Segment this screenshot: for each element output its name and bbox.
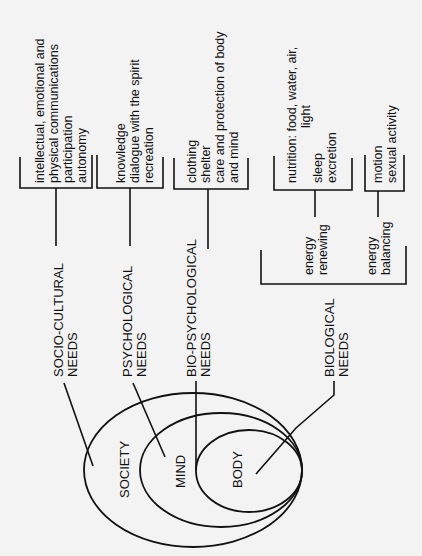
body-label: BODY: [230, 451, 245, 488]
psychological-needs-label: PSYCHOLOGICAL NEEDS: [120, 263, 149, 377]
body-pointer-line: [256, 381, 334, 474]
group-socio-cultural-items: intellectual, emotional and physical com…: [33, 35, 89, 183]
group-nutrition-items: nutrition: food, water, air, light: [285, 43, 313, 183]
socio-cultural-needs-label: SOCIO-CULTURAL NEEDS: [51, 260, 80, 377]
group-bio-psychological-items: clothing shelter care and protection of …: [185, 28, 241, 183]
society-label: SOCIETY: [117, 441, 132, 498]
mind-pointer-line: [133, 383, 165, 457]
bio-psychological-needs-label: BIO-PSYCHOLOGICAL NEEDS: [184, 236, 213, 377]
society-pointer-line: [64, 383, 93, 466]
needs-diagram: SOCIETY MIND BODY SOCIO-CULTURAL NEEDS P…: [0, 0, 422, 556]
biological-needs-label: BIOLOGICAL NEEDS: [322, 295, 351, 377]
mind-label: MIND: [173, 455, 188, 488]
energy-balancing-label: energy balancing: [365, 221, 393, 275]
diagram-svg: SOCIETY MIND BODY SOCIO-CULTURAL NEEDS P…: [0, 0, 422, 556]
mind-ellipse: [140, 413, 302, 527]
group-motion-items: motion sexual activity: [371, 104, 399, 183]
energy-renewing-label: energy renewing: [302, 224, 330, 275]
group-psychological-items: knowledge dialogue with the spirit recre…: [114, 56, 156, 183]
body-ellipse: [196, 430, 302, 512]
group-sleep-items: sleep excretion: [311, 132, 339, 183]
